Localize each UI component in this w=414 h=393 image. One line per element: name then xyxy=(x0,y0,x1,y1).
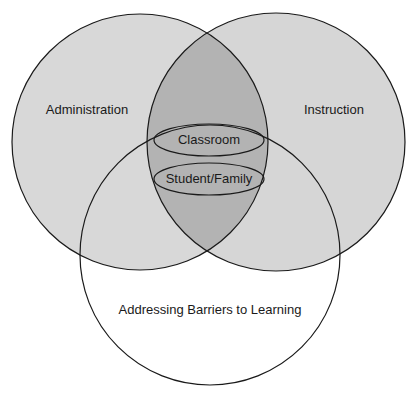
administration-label: Administration xyxy=(46,102,128,117)
instruction-label: Instruction xyxy=(304,102,364,117)
barriers-label: Addressing Barriers to Learning xyxy=(119,302,302,317)
venn-diagram: Administration Instruction Addressing Ba… xyxy=(0,0,414,393)
classroom-label: Classroom xyxy=(178,132,240,147)
student-family-label: Student/Family xyxy=(166,171,253,186)
